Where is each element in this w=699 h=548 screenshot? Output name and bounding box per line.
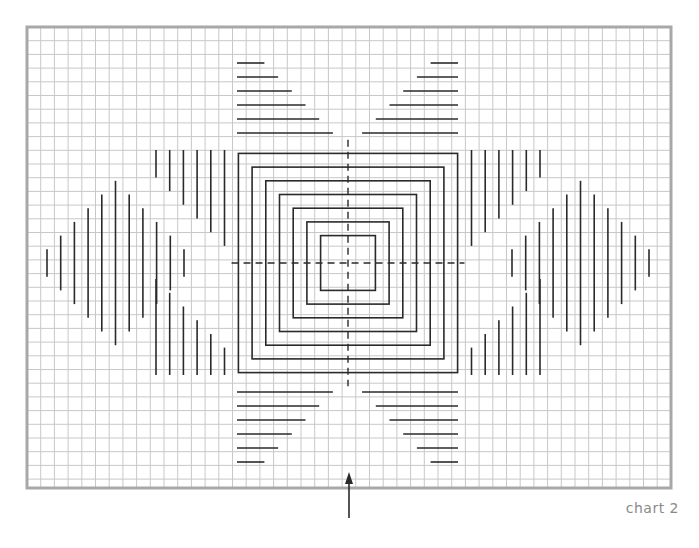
grid-lines [27,27,671,488]
chart-border [27,27,671,488]
chart-caption: chart 2 [626,500,679,516]
pattern-chart [0,0,699,548]
